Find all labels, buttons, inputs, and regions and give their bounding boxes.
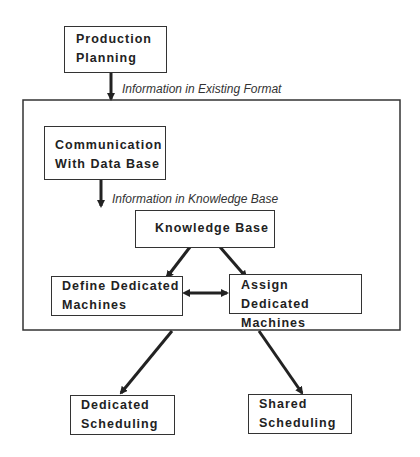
edge-label-existing-format: Information in Existing Format [122, 82, 281, 96]
node-production-planning: Production Planning [64, 26, 167, 73]
node-knowledge-base: Knowledge Base [135, 210, 275, 248]
node-shared-scheduling: Shared Scheduling [248, 394, 352, 434]
node-assign-dedicated-machines: Assign Dedicated Machines [229, 274, 362, 314]
node-communication: Communication With Data Base [44, 126, 166, 180]
node-dedicated-scheduling: Dedicated Scheduling [70, 395, 175, 435]
node-define-dedicated-machines: Define Dedicated Machines [51, 276, 183, 316]
